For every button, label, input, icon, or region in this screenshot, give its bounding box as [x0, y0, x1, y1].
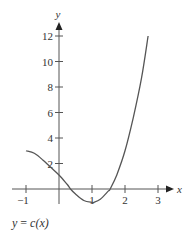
x-axis-label: x	[176, 183, 182, 195]
x-tick-label: 2	[122, 194, 128, 206]
caption-eq: =	[17, 216, 30, 230]
y-tick-label: 10	[42, 56, 54, 68]
x-tick-label: 3	[155, 194, 161, 206]
x-axis-arrow-icon	[166, 186, 174, 193]
ticks: −112324681012	[17, 30, 161, 206]
axes: xy	[12, 8, 182, 204]
y-axis-label: y	[55, 8, 61, 20]
y-tick-label: 2	[48, 158, 54, 170]
y-tick-label: 4	[48, 132, 54, 144]
caption-func: c(x)	[30, 216, 49, 230]
x-tick-label: −1	[17, 194, 29, 206]
caption: y = c(x)	[12, 216, 49, 231]
y-tick-label: 12	[42, 30, 53, 42]
x-tick-label: 1	[89, 194, 95, 206]
y-tick-label: 6	[48, 107, 54, 119]
y-tick-label: 8	[48, 81, 54, 93]
y-axis-arrow-icon	[56, 22, 63, 30]
function-plot: xy −112324681012	[0, 0, 187, 237]
